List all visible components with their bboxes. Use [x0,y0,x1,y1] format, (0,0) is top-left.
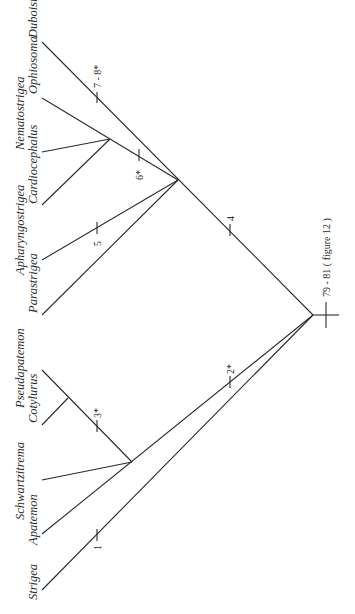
char-label-root: 79 - 81 ( figure 12 ) [321,218,333,297]
char-label-7-8: 7 - 8* [92,65,103,88]
taxon-apharyngostrigea: Apharyngostrigea [13,185,27,276]
taxon-ophiosoma: Ophiosoma [26,36,40,94]
branch-nematostrigea [42,139,110,152]
branch-pseudapatemon [42,370,132,462]
char-label-1: 1 [92,545,103,550]
taxon-schwartzitrema: Schwartzitrema [13,442,27,520]
char-label-3: 3* [92,408,103,418]
taxon-pseudapatemon: Pseudapatemon [13,328,27,409]
branch-strigea [42,315,313,590]
taxon-nematostrigea: Nematostrigea [13,76,27,151]
taxon-duboisiella: Duboisiella [26,0,40,39]
branch-schwartzitrema [42,462,132,480]
root-marker [313,302,339,328]
cladogram: 7 - 8* 6* 4 5 3* 2* 1 79 - 81 ( figure 1… [0,0,355,614]
taxon-cotylurus: Cotylurus [26,374,40,423]
char-label-6: 6* [134,170,145,180]
branch-apatemon [42,315,313,534]
branch-cotylurus [42,398,68,425]
char-label-5: 5 [92,241,103,246]
taxon-apatemon: Apatemon [26,494,40,546]
taxon-cardiocephalus: Cardiocephalus [26,124,40,204]
branch-cardiocephalus [42,139,110,205]
char-label-4: 4 [225,216,236,221]
char-label-2: 2* [225,364,236,374]
taxon-strigea: Strigea [26,564,40,600]
taxon-parastrigea: Parastrigea [26,253,40,314]
